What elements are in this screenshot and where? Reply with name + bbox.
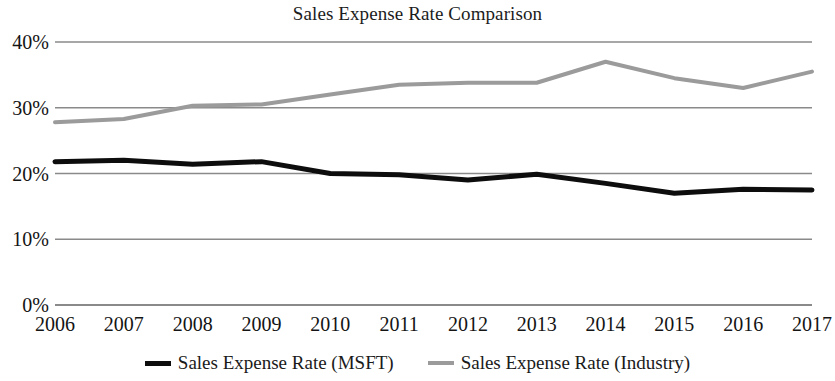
y-tick-20pct: 20% [12, 164, 49, 184]
x-tick-2006: 2006 [20, 313, 90, 335]
x-tick-2009: 2009 [226, 313, 296, 335]
y-tick-10pct: 10% [12, 229, 49, 249]
series-line-sales-expense-rate-msft [55, 160, 812, 193]
y-tick-0pct: 0% [22, 295, 49, 315]
x-tick-2017: 2017 [777, 313, 835, 335]
legend-swatch-msft-icon [145, 361, 171, 366]
x-tick-2013: 2013 [502, 313, 572, 335]
x-tick-2014: 2014 [571, 313, 641, 335]
legend-label: Sales Expense Rate (MSFT) [178, 352, 394, 374]
y-tick-30pct: 30% [12, 98, 49, 118]
x-tick-2012: 2012 [433, 313, 503, 335]
chart-legend: Sales Expense Rate (MSFT)Sales Expense R… [0, 352, 835, 374]
x-tick-2010: 2010 [295, 313, 365, 335]
legend-entry-msft[interactable]: Sales Expense Rate (MSFT) [145, 352, 394, 374]
x-tick-2007: 2007 [89, 313, 159, 335]
series-line-sales-expense-rate-industry [55, 62, 812, 122]
y-tick-40pct: 40% [12, 32, 49, 52]
legend-label: Sales Expense Rate (Industry) [461, 352, 691, 374]
x-tick-2016: 2016 [708, 313, 778, 335]
x-tick-2011: 2011 [364, 313, 434, 335]
legend-entry-industry[interactable]: Sales Expense Rate (Industry) [428, 352, 691, 374]
x-tick-2015: 2015 [639, 313, 709, 335]
x-tick-2008: 2008 [158, 313, 228, 335]
legend-swatch-industry-icon [428, 361, 454, 365]
chart-container: Sales Expense Rate Comparison 40%30%20%1… [0, 0, 835, 381]
